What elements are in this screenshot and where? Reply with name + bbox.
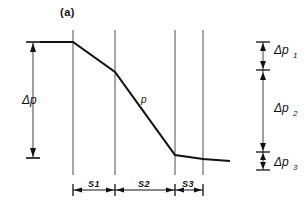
right-label-delta-p1-base: Δp [273,43,289,57]
panel-label: (a) [60,6,75,18]
right-dim-arrowhead-2-up [260,153,266,160]
right-dim-arrowhead-2-down [260,162,266,169]
curve-label: p [140,94,147,105]
segment-label-s3: S3 [182,179,194,189]
right-drop-dimensions: Δp 1 Δp 2 Δp 3 [256,42,298,172]
segment-arrowhead-s1-right [106,187,114,192]
segment-arrowhead-s3-right [194,187,202,192]
segment-arrowhead-s2-left [116,187,124,192]
right-label-delta-p2-sub: 2 [292,109,298,118]
segment-dimension-line: S1 S2 S3 [73,179,203,196]
right-label-delta-p1-sub: 1 [293,51,297,60]
pressure-curve [40,42,230,161]
right-label-delta-p3-sub: 3 [293,163,298,172]
left-dim-arrowhead-down [30,148,36,157]
left-axis-label: Δp [21,93,37,107]
right-dim-arrowhead-1-down [260,143,266,151]
right-dim-arrowhead-0-down [260,61,266,69]
figure-canvas: (a) p Δp [0,0,308,207]
right-label-delta-p3-base: Δp [273,155,289,169]
segment-label-s1: S1 [88,179,100,189]
segment-arrowhead-s1-left [74,187,82,192]
segment-label-s2: S2 [138,179,150,189]
right-dim-arrowhead-0-up [260,43,266,51]
segment-arrowhead-s2-right [166,187,174,192]
right-label-delta-p2-base: Δp [273,101,289,115]
right-dim-arrowhead-1-up [260,72,266,80]
pressure-drop-figure: (a) p Δp [0,0,308,207]
left-total-drop-dimension: Δp [21,42,40,158]
left-dim-arrowhead-up [30,43,36,52]
